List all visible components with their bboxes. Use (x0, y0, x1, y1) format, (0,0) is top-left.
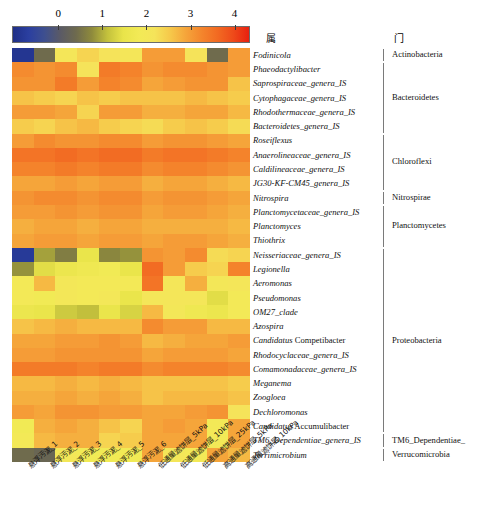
heatmap-cell (142, 305, 164, 319)
phylum-label: Proteobacteria (392, 336, 442, 345)
heatmap-cell (12, 248, 34, 262)
heatmap-cell (163, 77, 185, 91)
heatmap-cell (55, 119, 77, 133)
heatmap-cell (55, 248, 77, 262)
heatmap-cell (34, 148, 56, 162)
genus-label: Phaeodactylibacter (253, 65, 320, 74)
genus-label: Azospira (253, 322, 284, 331)
heatmap-cell (228, 248, 250, 262)
heatmap-cell (12, 105, 34, 119)
genus-label: Candidatus Competibacter (253, 336, 345, 345)
heatmap-cell (163, 319, 185, 333)
heatmap-cell (228, 376, 250, 390)
heatmap-cell (185, 319, 207, 333)
heatmap-cell (163, 291, 185, 305)
heatmap-cell (228, 334, 250, 348)
heatmap-cell (120, 291, 142, 305)
heatmap-cell (207, 191, 229, 205)
heatmap-cell (34, 276, 56, 290)
heatmap-cell (34, 362, 56, 376)
heatmap-cell (12, 291, 34, 305)
genus-label: Planctomycetaceae_genera_IS (253, 208, 359, 217)
heatmap-cell (120, 234, 142, 248)
colorbar: 01234 (12, 26, 250, 43)
genus-label: Legionella (253, 265, 290, 274)
heatmap-cell (120, 148, 142, 162)
heatmap-cell (163, 105, 185, 119)
heatmap-cell (207, 348, 229, 362)
heatmap-cell (34, 62, 56, 76)
heatmap-cell (228, 262, 250, 276)
heatmap-cell (12, 362, 34, 376)
heatmap-cell (228, 391, 250, 405)
heatmap-cell (207, 148, 229, 162)
heatmap-cell (12, 219, 34, 233)
phylum-bracket (383, 135, 384, 190)
heatmap-cell (185, 362, 207, 376)
heatmap-cell (185, 405, 207, 419)
heatmap-cell (77, 191, 99, 205)
phylum-bracket (383, 49, 384, 61)
heatmap-cell (228, 162, 250, 176)
heatmap-cell (163, 176, 185, 190)
heatmap-cell (55, 191, 77, 205)
heatmap-cell (228, 219, 250, 233)
heatmap-cell (120, 348, 142, 362)
heatmap-cell (142, 77, 164, 91)
heatmap-cell (207, 391, 229, 405)
genus-label: Meganema (253, 379, 291, 388)
heatmap-cell (163, 305, 185, 319)
heatmap-cell (99, 376, 121, 390)
genus-label: JG30-KF-CM45_genera_IS (253, 179, 349, 188)
heatmap-cell (120, 119, 142, 133)
heatmap-cell (142, 262, 164, 276)
heatmap-cell (228, 405, 250, 419)
heatmap-cell (120, 91, 142, 105)
heatmap-cell (163, 91, 185, 105)
genus-label: OM27_clade (253, 308, 298, 317)
heatmap-cell (55, 319, 77, 333)
phylum-label: Actinobacteria (392, 50, 443, 59)
heatmap-cell (207, 77, 229, 91)
heatmap-cell (207, 262, 229, 276)
heatmap-cell (185, 162, 207, 176)
genus-label: Fodinicola (253, 51, 291, 60)
genus-label: Zoogloea (253, 393, 285, 402)
heatmap-cell (34, 162, 56, 176)
heatmap-cell (120, 48, 142, 62)
heatmap-cell (55, 276, 77, 290)
heatmap-cell (12, 234, 34, 248)
heatmap-cell (12, 276, 34, 290)
heatmap-cell (228, 291, 250, 305)
heatmap-cell (12, 91, 34, 105)
heatmap-cell (55, 334, 77, 348)
heatmap-cell (207, 276, 229, 290)
heatmap-cell (34, 77, 56, 91)
heatmap-cell (77, 205, 99, 219)
heatmap-cell (77, 162, 99, 176)
heatmap-cell (142, 191, 164, 205)
genus-label: Rhodocyclaceae_genera_IS (253, 351, 349, 360)
heatmap-cell (12, 119, 34, 133)
heatmap-cell (185, 305, 207, 319)
heatmap-cell (207, 219, 229, 233)
heatmap-cell (228, 119, 250, 133)
heatmap-cell (120, 162, 142, 176)
heatmap-cell (207, 305, 229, 319)
phylum-label-column: ActinobacteriaBacteroidetesChloroflexiNi… (392, 48, 480, 462)
heatmap-cell (207, 362, 229, 376)
heatmap-cell (55, 91, 77, 105)
heatmap-cell (55, 405, 77, 419)
heatmap-cell (185, 376, 207, 390)
heatmap-cell (185, 276, 207, 290)
heatmap-cell (99, 191, 121, 205)
heatmap-cell (142, 348, 164, 362)
heatmap-cell (185, 348, 207, 362)
heatmap-cell (77, 376, 99, 390)
heatmap-cell (99, 162, 121, 176)
heatmap-cell (185, 176, 207, 190)
heatmap-cell (12, 391, 34, 405)
colorbar-tick (102, 25, 103, 30)
heatmap-cell (77, 219, 99, 233)
heatmap-cell (207, 376, 229, 390)
